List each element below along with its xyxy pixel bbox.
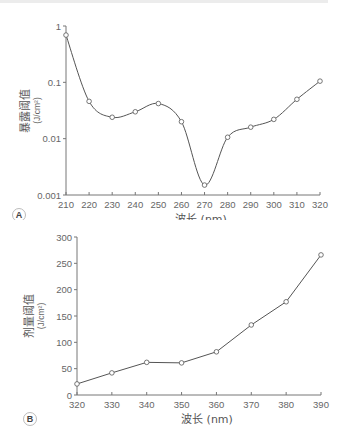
- chart-b: 0501001502002503003203303403503603703803…: [22, 232, 329, 427]
- x-tick-label: 340: [139, 399, 155, 410]
- y-axis-title: 剂量阈值: [22, 294, 36, 338]
- x-tick-label: 330: [104, 399, 120, 410]
- x-tick-label: 380: [278, 399, 294, 410]
- data-point-marker: [214, 350, 219, 355]
- chart-b-dose-threshold: 0501001502002503003203303403503603703803…: [0, 0, 344, 433]
- data-point-marker: [179, 361, 184, 366]
- y-tick-label: 250: [56, 258, 72, 269]
- x-tick-label: 320: [69, 399, 85, 410]
- x-tick-label: 360: [208, 399, 224, 410]
- data-point-marker: [110, 371, 115, 376]
- data-point-marker: [144, 360, 149, 365]
- x-tick-label: 390: [313, 399, 329, 410]
- x-tick-label: 350: [174, 399, 190, 410]
- y-tick-label: 150: [56, 311, 72, 322]
- data-line: [77, 255, 321, 384]
- data-point-marker: [249, 323, 254, 328]
- data-point-marker: [75, 382, 80, 387]
- y-tick-label: 200: [56, 284, 72, 295]
- y-tick-label: 50: [61, 363, 72, 374]
- panel-letter: B: [27, 414, 34, 424]
- data-point-marker: [319, 253, 324, 258]
- y-tick-label: 300: [56, 232, 72, 243]
- y-tick-label: 100: [56, 337, 72, 348]
- data-point-marker: [284, 299, 289, 304]
- x-tick-label: 370: [243, 399, 259, 410]
- y-axis-unit: (J/cm²): [36, 303, 46, 330]
- x-axis-title: 波长 (nm): [181, 413, 233, 426]
